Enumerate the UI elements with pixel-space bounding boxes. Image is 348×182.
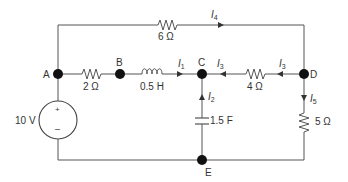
- node-a-label: A: [43, 69, 50, 80]
- circuit-diagram: 6 Ω I4 2 Ω 0.5 H 4 Ω I1 I3 I3 + – 10 V: [0, 0, 348, 182]
- resistor-2-ohm-icon: [82, 69, 101, 79]
- current-label-i5: I5: [310, 93, 317, 105]
- current-label-i4: I4: [211, 9, 218, 21]
- inductor-label: 0.5 H: [140, 81, 164, 92]
- right-branch: I5 5 Ω: [299, 74, 331, 160]
- current-arrow-i2-icon: [199, 94, 205, 100]
- current-label-i3-near-d: I3: [279, 58, 286, 70]
- node-b-label: B: [116, 57, 123, 68]
- current-label-i1: I1: [178, 58, 185, 70]
- resistor-5-ohm-icon: [299, 113, 309, 132]
- current-arrow-i3-near-d-icon: [277, 71, 283, 77]
- voltage-source-branch: + – 10 V: [15, 74, 77, 160]
- voltage-source-minus-sign: –: [55, 124, 60, 134]
- voltage-source-plus-sign: +: [55, 105, 60, 114]
- resistor-6-ohm-label: 6 Ω: [158, 31, 174, 42]
- capacitor-label: 1.5 F: [210, 115, 233, 126]
- resistor-4-ohm-icon: [246, 69, 265, 79]
- resistor-5-ohm-label: 5 Ω: [315, 116, 331, 127]
- voltage-source-label: 10 V: [15, 115, 36, 126]
- current-arrow-i3-near-c-icon: [220, 71, 226, 77]
- current-arrow-i1-icon: [177, 71, 183, 77]
- node-c: [197, 69, 207, 79]
- inductor-icon: [142, 69, 162, 74]
- resistor-4-ohm-label: 4 Ω: [247, 81, 263, 92]
- node-c-label: C: [198, 57, 205, 68]
- node-a: [53, 69, 63, 79]
- resistor-2-ohm-label: 2 Ω: [83, 81, 99, 92]
- current-arrow-i4-icon: [218, 22, 224, 28]
- current-label-i2: I2: [208, 91, 215, 103]
- node-d-label: D: [310, 69, 317, 80]
- node-e-label: E: [205, 167, 212, 178]
- node-d: [299, 69, 309, 79]
- capacitor-branch: I2 1.5 F: [195, 74, 233, 160]
- node-b: [115, 69, 125, 79]
- resistor-6-ohm-icon: [158, 20, 177, 30]
- current-label-i3-near-c: I3: [217, 58, 224, 70]
- node-e: [197, 155, 207, 165]
- middle-branch: 2 Ω 0.5 H 4 Ω I1 I3 I3: [58, 58, 304, 92]
- current-arrow-i5-icon: [301, 95, 307, 101]
